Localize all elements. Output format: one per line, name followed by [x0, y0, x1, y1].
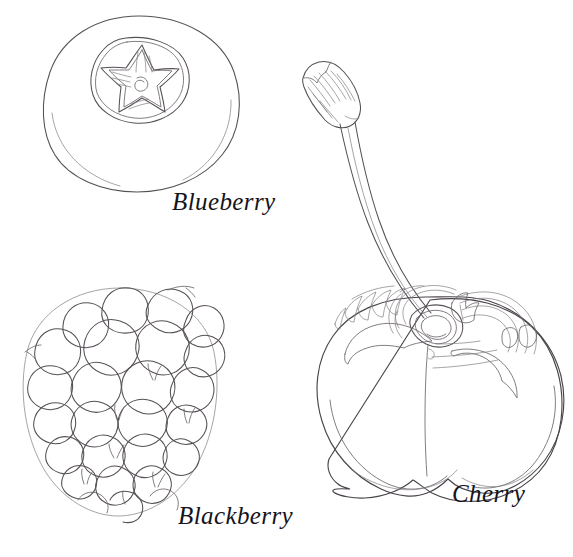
cherry-crescent-highlight-right [451, 349, 517, 398]
blackberry-drupelet [62, 466, 97, 499]
cherry-stem-left-edge [340, 124, 424, 318]
cherry-stem-tip-ridge [313, 94, 332, 118]
blackberry-drupelet [146, 289, 193, 333]
blackberry-drupelet [78, 492, 108, 513]
cherry-center-crease [425, 345, 428, 476]
blueberry-illustration [43, 16, 239, 192]
cherry-stem-socket-lip [427, 334, 446, 337]
blackberry-whisker [184, 408, 195, 423]
blackberry-label: Blackberry [178, 503, 293, 528]
blueberry-body-outline [43, 16, 239, 192]
blackberry-drupelet [123, 434, 167, 478]
blackberry-whisker [115, 405, 124, 420]
cherry-body-inner-contour-right [474, 386, 555, 488]
cherry-stem-tip-ridge [337, 74, 355, 101]
cherry-shelf-line [433, 360, 498, 368]
blackberry-whisker [25, 345, 41, 360]
drawing-sheet: Blueberry Blackberry Cherry [0, 0, 573, 557]
blackberry-whisker [123, 491, 125, 504]
cherry-center-crease-dot [428, 349, 434, 359]
blackberry-silhouette [23, 288, 217, 516]
cherry-body-silhouette [317, 297, 564, 496]
cherry-socket-swirl-right [460, 298, 528, 353]
blueberry-inner-contour [52, 113, 120, 186]
cherry-socket-swirl-right [463, 315, 510, 352]
blackberry-drupelet [46, 437, 84, 474]
blackberry-illustration [23, 286, 225, 522]
blueberry-inner-contour-right [183, 100, 231, 180]
blackberry-whisker [109, 444, 124, 458]
blackberry-whisker [148, 364, 161, 380]
cherry-stem-tip-edge [345, 116, 359, 119]
blackberry-whisker [82, 469, 93, 484]
blackberry-drupelet [96, 466, 136, 505]
cherry-socket-swirl-right [458, 292, 536, 354]
blueberry-calyx-star [101, 45, 179, 112]
cherry-highlight-streak-short [335, 308, 346, 329]
blackberry-whisker [153, 472, 165, 487]
cherry-crescent-highlight [345, 323, 432, 364]
cherry-illustration [303, 61, 564, 501]
blackberry-drupelet [71, 362, 121, 412]
blackberry-drupelet [110, 491, 143, 522]
cherry-highlight-streak [345, 296, 362, 322]
fruit-line-art [0, 0, 573, 557]
cherry-stem-tip-ridge [331, 71, 351, 100]
cherry-label: Cherry [452, 481, 525, 506]
blackberry-drupelet [136, 321, 190, 375]
blackberry-drupelet [71, 401, 118, 447]
blueberry-star-striation-1 [136, 52, 138, 72]
blueberry-label: Blueberry [172, 189, 276, 214]
blackberry-drupelet [184, 335, 225, 377]
blueberry-calyx-center-spiral [135, 77, 148, 91]
cherry-highlight-streak-long [352, 286, 394, 299]
cherry-body-inner-contour [330, 400, 447, 489]
